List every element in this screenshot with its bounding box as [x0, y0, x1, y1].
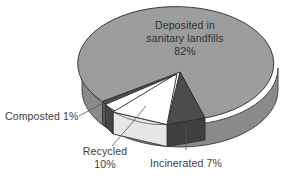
landfill-label-line1: Deposited in [155, 19, 215, 31]
recycled-label-value: 10% [94, 158, 115, 170]
pie-chart-svg: Deposited in sanitary landfills 82% Comp… [0, 0, 287, 181]
pie-chart-figure: Deposited in sanitary landfills 82% Comp… [0, 0, 287, 181]
composted-left-face [103, 102, 106, 127]
composted-label: Composted 1% [5, 110, 79, 122]
landfill-label-line2: sanitary landfills [146, 32, 223, 44]
recycled-label-name: Recycled [83, 145, 127, 157]
incinerated-label: Incinerated 7% [150, 157, 222, 169]
landfill-label-value: 82% [174, 45, 195, 57]
